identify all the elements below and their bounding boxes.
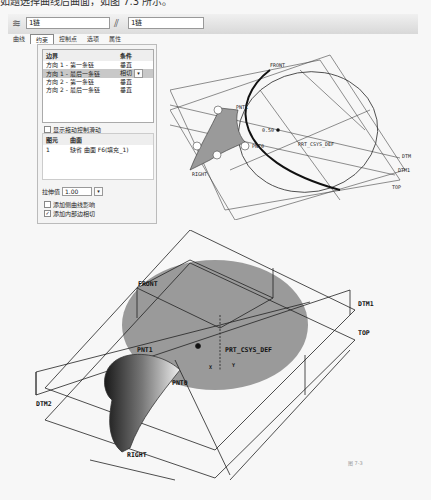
boundary-dir1-icon[interactable]: ≋ <box>12 17 21 30</box>
stretch-dropdown-icon[interactable]: ▾ <box>94 187 103 196</box>
tab-constraints[interactable]: 约束 <box>30 34 54 44</box>
col-boundary: 边界 <box>43 50 117 61</box>
dimension-label: 0.50 <box>262 127 274 133</box>
csys-label: PRT_CSYS_DEF <box>225 346 272 354</box>
csys-label: PRT_CSYS_DEF <box>298 141 334 148</box>
boundary-dir2-icon[interactable]: ⫽ <box>114 17 119 30</box>
dashboard-tabs: 曲线 约束 控制点 选项 属性 <box>8 34 126 44</box>
col-entity: 图元 <box>43 134 67 145</box>
front-label: FRONT <box>270 62 285 68</box>
pnt1-label: PNT1 <box>137 346 153 354</box>
top-label: TOP <box>392 184 401 190</box>
dir2-chain-collector[interactable]: 1链 <box>128 17 204 29</box>
internal-edge-tangent-option[interactable]: ✓ 添加内部边相切 <box>44 209 95 218</box>
dtm1-label: DTM1 <box>358 300 374 308</box>
right-label: RIGHT <box>192 171 207 177</box>
page-caption: 如题选择曲线后曲面，如图 7.3 所示。 <box>0 0 431 6</box>
stretch-value-input[interactable]: 1.00 <box>62 187 92 196</box>
stretch-value-row: 拉伸值 1.00 ▾ <box>42 187 103 196</box>
axis-x-label: X <box>209 364 212 370</box>
col-condition: 条件 <box>117 50 153 61</box>
tab-properties[interactable]: 属性 <box>104 34 126 44</box>
table-row[interactable]: 方向 2 - 第一条链 垂直 <box>43 78 153 86</box>
top-label: TOP <box>358 329 370 337</box>
pnt1-label: PNT1 <box>236 104 248 110</box>
tab-options[interactable]: 选项 <box>82 34 104 44</box>
table-row[interactable]: 1 缺省 曲面 F6(填充_1) <box>43 145 153 154</box>
right-label: RIGHT <box>127 451 147 459</box>
col-surface: 曲面 <box>67 134 153 145</box>
side-curve-influence-checkbox[interactable] <box>44 201 51 208</box>
bottom-model-view[interactable]: FRONT DTM1 TOP PNT1 PRT_CSYS_DEF PNT0 DT… <box>0 230 431 500</box>
side-curve-influence-option[interactable]: 添加侧曲线影响 <box>44 200 95 209</box>
condition-dropdown-icon[interactable]: ▾ <box>134 69 143 78</box>
top-model-view[interactable]: FRONT PNT1 0.50 PNT0 PRT_CSYS_DEF DTM DT… <box>170 50 431 220</box>
table-row[interactable]: 方向 2 - 最后一条链 垂直 <box>43 86 153 94</box>
front-label: FRONT <box>138 280 158 288</box>
tab-curves[interactable]: 曲线 <box>8 34 30 44</box>
constraints-panel: 边界 条件 方向 1 - 第一条链 垂直 方向 1 - 最后一条链 相切 ▾ 方… <box>37 44 157 224</box>
table-row[interactable]: 方向 1 - 第一条链 垂直 <box>43 61 153 69</box>
table-row-selected[interactable]: 方向 1 - 最后一条链 相切 ▾ <box>43 69 153 78</box>
dtm2-label: DTM2 <box>36 400 52 408</box>
internal-edge-tangent-checkbox[interactable]: ✓ <box>44 210 51 217</box>
axis-y-label: Y <box>232 362 235 368</box>
reference-table: 图元 曲面 1 缺省 曲面 F6(填充_1) <box>42 133 154 180</box>
pnt0-label: PNT0 <box>172 379 188 387</box>
pnt0-label: PNT0 <box>252 143 264 149</box>
show-drag-handles-checkbox[interactable] <box>44 126 51 133</box>
figure-label: 图 7-3 <box>348 459 363 466</box>
constraints-table: 边界 条件 方向 1 - 第一条链 垂直 方向 1 - 最后一条链 相切 ▾ 方… <box>42 49 154 123</box>
dashboard-ribbon-extension <box>170 14 418 34</box>
dtm-label: DTM <box>402 153 411 159</box>
tab-control-points[interactable]: 控制点 <box>54 34 82 44</box>
dtm1-label: DTM1 <box>398 167 410 173</box>
dir1-chain-collector[interactable]: 1链 <box>26 17 110 29</box>
